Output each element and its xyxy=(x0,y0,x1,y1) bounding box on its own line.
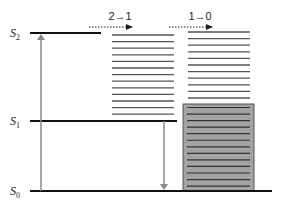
jablonski-diagram: S2S1S0 2→11→0 xyxy=(0,0,285,202)
state-label-s1: S1 xyxy=(10,114,20,130)
transition-arrows xyxy=(41,35,164,191)
state-label-s0: S0 xyxy=(10,184,20,200)
vibrational-levels-middle xyxy=(112,35,174,114)
diagram-svg: S2S1S0 2→11→0 xyxy=(0,0,285,202)
state-label-s2: S2 xyxy=(10,26,20,42)
vibrational-levels-right xyxy=(188,32,250,98)
populated-band-rect xyxy=(183,104,254,191)
filled-level-band xyxy=(183,104,254,191)
transition-label-1: 1→0 xyxy=(188,10,211,22)
relaxation-labels: 2→11→0 xyxy=(89,10,212,27)
transition-label-0: 2→1 xyxy=(108,10,131,22)
